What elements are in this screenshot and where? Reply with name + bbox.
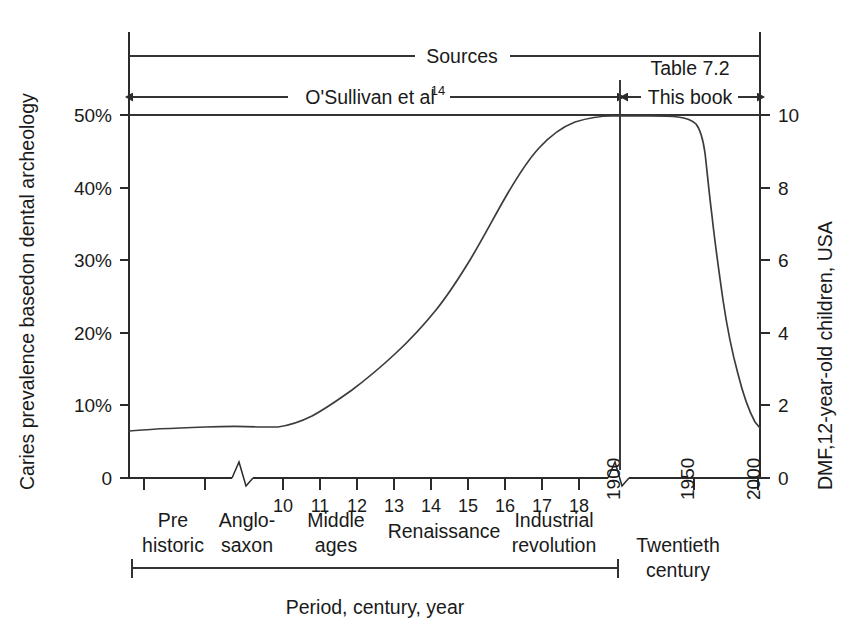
left-axis-title: Caries prevalence basedon dental archeol… <box>16 93 38 490</box>
right-tick-label-6: 6 <box>778 250 789 271</box>
period-label-twentieth-line1: Twentieth <box>636 534 719 556</box>
century-label-10: 10 <box>273 496 293 516</box>
year-label-2000: 2000 <box>743 458 764 500</box>
period-label-industrial-line1: Industrial <box>514 509 593 531</box>
caries-prevalence-figure: Sources O'Sullivan et al 14 This book Ta… <box>0 0 854 635</box>
period-label-anglosaxon-line2: saxon <box>221 534 273 556</box>
year-label-1900: 1900 <box>603 458 624 500</box>
period-label-middleages-line2: ages <box>315 534 358 556</box>
right-tick-label-4: 4 <box>778 323 789 344</box>
left-tick-label-10: 10% <box>74 395 112 416</box>
period-label-anglosaxon-line1: Anglo- <box>219 509 275 531</box>
period-label-prehistoric-line2: historic <box>142 534 204 556</box>
period-label-twentieth-line2: century <box>646 559 710 581</box>
century-label-14: 14 <box>421 496 441 516</box>
caries-prevalence-curve <box>129 116 760 431</box>
right-tick-label-10: 10 <box>778 105 799 126</box>
left-y-ticks <box>120 115 129 478</box>
century-label-16: 16 <box>495 496 515 516</box>
century-label-15: 15 <box>458 496 478 516</box>
this-book-label: This book <box>648 86 733 108</box>
left-tick-label-30: 30% <box>74 250 112 271</box>
sources-label: Sources <box>426 45 498 67</box>
period-label-renaissance: Renaissance <box>388 520 501 542</box>
table-reference-label: Table 7.2 <box>650 57 729 79</box>
x-axis-break-anglosaxon <box>232 462 253 486</box>
period-label-middleages-line1: Middle <box>307 509 364 531</box>
right-axis-title: DMF,12-year-old children, USA <box>814 221 836 490</box>
period-label-industrial-line2: revolution <box>512 534 597 556</box>
left-tick-label-50: 50% <box>74 105 112 126</box>
right-tick-label-2: 2 <box>778 395 789 416</box>
left-tick-label-20: 20% <box>74 323 112 344</box>
osullivan-superscript: 14 <box>431 83 445 98</box>
year-label-1950: 1950 <box>677 458 698 500</box>
left-tick-label-0: 0 <box>101 468 112 489</box>
bottom-axis-title: Period, century, year <box>286 596 465 618</box>
right-tick-label-8: 8 <box>778 178 789 199</box>
osullivan-label: O'Sullivan et al <box>305 86 434 108</box>
century-label-13: 13 <box>384 496 404 516</box>
period-label-prehistoric-line1: Pre <box>158 509 188 531</box>
right-y-ticks <box>760 115 770 478</box>
left-tick-label-40: 40% <box>74 178 112 199</box>
right-tick-label-0: 0 <box>778 468 789 489</box>
x-ticks <box>144 478 758 490</box>
chart-canvas: Sources O'Sullivan et al 14 This book Ta… <box>0 0 854 635</box>
